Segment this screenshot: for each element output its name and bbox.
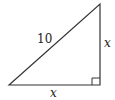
right-angle-marker <box>92 78 100 85</box>
horizontal-leg-label: x <box>50 86 57 100</box>
triangle-diagram: 10 x x <box>0 0 115 100</box>
vertical-leg-label: x <box>104 36 111 50</box>
hypotenuse-label: 10 <box>37 32 52 46</box>
right-triangle <box>9 4 100 85</box>
